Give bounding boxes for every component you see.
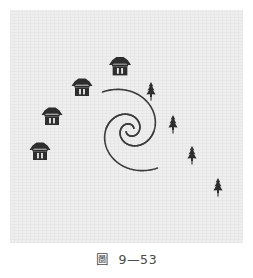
tree-3-icon — [187, 146, 196, 165]
house-eave — [74, 86, 89, 88]
house-4-icon — [30, 143, 51, 161]
house-pillar-gap-2 — [53, 118, 55, 123]
house-roof — [42, 108, 63, 116]
house-pillar-gap-1 — [117, 68, 119, 74]
tree-trunk — [191, 160, 192, 164]
house-3-icon — [109, 57, 131, 75]
house-pillar-gap-1 — [79, 89, 81, 94]
caption-number: 9—53 — [118, 252, 157, 267]
house-eave — [32, 150, 47, 152]
spiral-diagram — [10, 10, 243, 243]
house-1-icon — [42, 108, 63, 126]
tree-crown — [187, 146, 196, 161]
tree-trunk — [150, 96, 151, 100]
tree-2-icon — [168, 115, 177, 134]
house-eave — [112, 64, 128, 66]
house-roof — [72, 79, 93, 87]
house-eave — [44, 115, 59, 117]
house-pillar-gap-2 — [121, 68, 123, 74]
tree-icon-layer — [146, 82, 222, 197]
house-body — [75, 87, 89, 96]
tree-trunk — [172, 129, 173, 133]
arm-outer-lower-right — [103, 89, 156, 145]
arm-outer-upper-left — [105, 114, 158, 170]
caption-label: 圖 — [96, 249, 110, 268]
house-pillar-gap-2 — [41, 153, 43, 158]
house-pillar-gap-1 — [49, 118, 51, 123]
house-roof — [109, 57, 131, 65]
house-pillar-gap-2 — [83, 89, 85, 94]
house-body — [33, 151, 47, 160]
house-body — [113, 66, 128, 75]
house-body — [45, 116, 59, 125]
tree-4-icon — [213, 178, 222, 197]
house-roof — [30, 143, 51, 151]
figure-panel — [10, 10, 243, 243]
house-pillar-gap-1 — [37, 153, 39, 158]
figure-caption: 圖9—53 — [0, 249, 253, 268]
tree-crown — [213, 178, 222, 193]
house-2-icon — [72, 79, 93, 97]
spiral-arm-group — [103, 89, 158, 170]
tree-trunk — [217, 192, 218, 196]
figure-container: 圖9—53 — [0, 0, 253, 278]
house-icon-layer — [30, 57, 132, 160]
tree-crown — [146, 82, 155, 97]
tree-1-icon — [146, 82, 155, 101]
tree-crown — [168, 115, 177, 130]
